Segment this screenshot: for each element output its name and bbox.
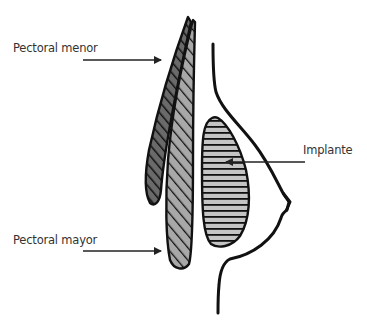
breast-implant-diagram: Pectoral menor Implante Pectoral mayor (0, 0, 367, 324)
label-pectoral-mayor: Pectoral mayor (13, 233, 97, 247)
label-pectoral-menor: Pectoral menor (13, 41, 98, 55)
label-implante: Implante (303, 143, 352, 157)
implant-shape (202, 117, 249, 246)
